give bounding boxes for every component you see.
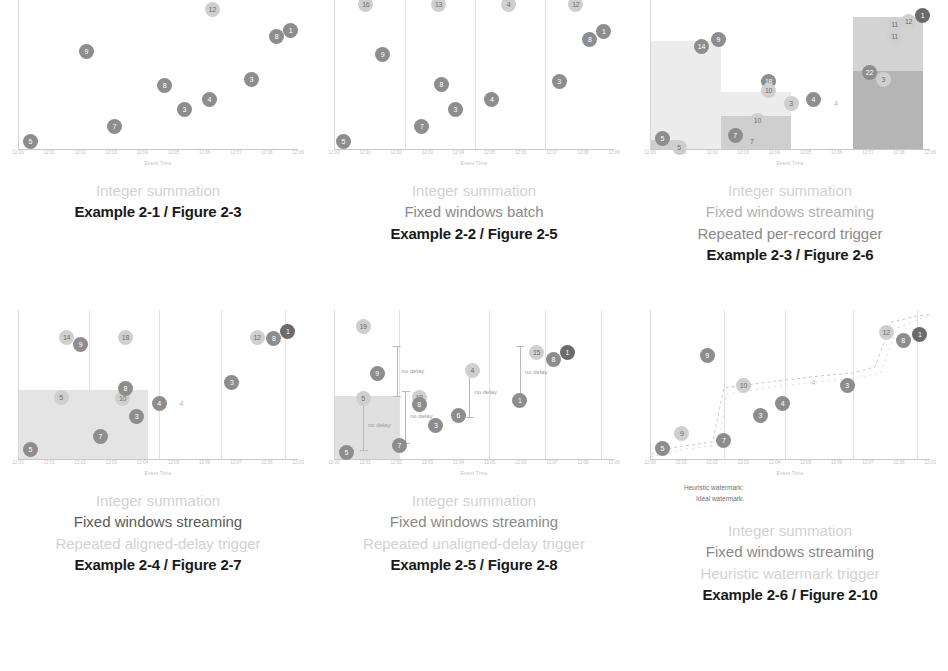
x-axis-title: Event Time [650, 160, 930, 166]
plot-area: 59971034431281 [650, 310, 930, 460]
data-point: 4 [465, 363, 480, 378]
data-point: 8 [412, 397, 427, 412]
x-tick-label: 12:01 [675, 460, 686, 465]
x-axis-ticks: 12:0012:0112:0212:0312:0412:0512:0612:07… [650, 150, 930, 159]
panel-example-2-6: 5997103443128112:0012:0112:0212:0312:041… [632, 310, 948, 671]
data-point: 9 [79, 44, 94, 59]
data-point: 8 [434, 77, 449, 92]
chart-example-2-2: 161341259738438112:0012:0112:0212:0312:0… [334, 0, 614, 166]
delay-label: no delay [525, 369, 548, 375]
x-tick-label: 12:04 [137, 150, 148, 155]
data-point: 1 [512, 393, 527, 408]
x-tick-label: 12:02 [707, 150, 718, 155]
x-tick-label: 12:03 [422, 150, 433, 155]
caption-line: Integer summation [640, 180, 940, 201]
data-point: 18 [118, 330, 133, 345]
caption-example-title: Example 2-2 / Figure 2-5 [324, 223, 624, 244]
x-tick-label: 12:05 [168, 460, 179, 465]
plot-area: no delayno delayno delayno delayno delay… [334, 310, 614, 460]
x-tick-label: 12:06 [199, 460, 210, 465]
data-point: 5 [356, 391, 371, 406]
data-point: 1 [560, 345, 575, 360]
caption-line: Integer summation [324, 180, 624, 201]
window-boundary-line [475, 0, 476, 149]
panel-example-2-5: no delayno delayno delayno delayno delay… [316, 310, 632, 671]
legend-swatch [776, 488, 822, 489]
window-total-marker: 13 [431, 0, 446, 12]
panel-example-2-1: 5978341238112:0012:0112:0212:0312:0412:0… [0, 0, 316, 310]
x-tick-label: 12:08 [893, 150, 904, 155]
data-point: 3 [753, 408, 768, 423]
caption-line: Fixed windows streaming [640, 201, 940, 222]
data-point: 3 [840, 378, 855, 393]
chart-example-2-1: 5978341238112:0012:0112:0212:0312:0412:0… [18, 0, 298, 166]
caption-example-title: Example 2-4 / Figure 2-7 [8, 554, 308, 575]
x-tick-label: 12:01 [43, 460, 54, 465]
data-point: 5 [655, 441, 670, 456]
delay-label: no delay [368, 422, 391, 428]
caption-example-title: Example 2-5 / Figure 2-8 [324, 554, 624, 575]
x-tick-label: 12:02 [391, 460, 402, 465]
data-point: 10 [750, 113, 765, 128]
x-axis-title: Event Time [18, 470, 298, 476]
data-point: 3 [876, 72, 891, 87]
data-point: 10 [736, 378, 751, 393]
x-axis-title: Event Time [334, 470, 614, 476]
plot-area: 55149771018103442231111121 [650, 0, 930, 150]
data-point: 4 [202, 92, 217, 107]
x-tick-label: 12:06 [831, 460, 842, 465]
caption-example-2-6: Integer summationFixed windows streaming… [640, 520, 940, 605]
x-tick-label: 12:02 [391, 150, 402, 155]
data-point: 12 [205, 2, 220, 17]
data-point: 4 [775, 396, 790, 411]
x-tick-label: 12:05 [168, 150, 179, 155]
window-total-marker: 16 [358, 0, 373, 12]
data-point: 8 [266, 331, 281, 346]
window-boundary-line [601, 310, 602, 459]
data-point: 5 [336, 134, 351, 149]
data-point: 9 [370, 366, 385, 381]
data-point: 3 [129, 409, 144, 424]
data-point: 12 [250, 330, 265, 345]
chart-example-2-3: 5514977101810344223111112112:0012:0112:0… [650, 0, 930, 166]
x-tick-label: 12:05 [484, 150, 495, 155]
data-point: 3 [177, 102, 192, 117]
data-point: 15 [529, 345, 544, 360]
data-point: 5 [23, 442, 38, 457]
data-point: 7 [392, 438, 407, 453]
data-point: 8 [118, 381, 133, 396]
data-point: 9 [711, 32, 726, 47]
data-point: 7 [414, 119, 429, 134]
delay-bracket [397, 346, 398, 397]
x-tick-label: 12:06 [515, 150, 526, 155]
caption-line: Integer summation [8, 490, 308, 511]
data-point: 3 [784, 96, 799, 111]
example-panel-grid: 5978341238112:0012:0112:0212:0312:0412:0… [0, 0, 948, 671]
x-axis-title: Event Time [334, 160, 614, 166]
data-point: 7 [93, 429, 108, 444]
data-point: 4 [828, 96, 843, 111]
data-point: 5 [23, 134, 38, 149]
caption-line: Integer summation [8, 180, 308, 201]
x-tick-label: 12:02 [707, 460, 718, 465]
watermark-legend: Heuristic watermark:Ideal watermark: [650, 484, 930, 506]
x-tick-label: 12:00 [644, 460, 655, 465]
x-tick-label: 12:09 [924, 150, 935, 155]
caption-example-2-4: Integer summationFixed windows streaming… [8, 490, 308, 575]
data-point: 4 [806, 92, 821, 107]
data-point: 8 [896, 333, 911, 348]
x-tick-label: 12:06 [515, 460, 526, 465]
x-axis-title: Event Time [650, 470, 930, 476]
data-point: 3 [428, 418, 443, 433]
caption-line: Fixed windows streaming [8, 511, 308, 532]
delay-label: no delay [402, 368, 425, 374]
data-point: 7 [744, 134, 759, 149]
x-tick-label: 12:09 [292, 150, 303, 155]
x-tick-label: 12:03 [422, 460, 433, 465]
x-tick-label: 12:07 [230, 150, 241, 155]
x-tick-label: 12:09 [292, 460, 303, 465]
data-point: 8 [157, 78, 172, 93]
data-point: 12 [879, 325, 894, 340]
caption-example-title: Example 2-6 / Figure 2-10 [640, 584, 940, 605]
x-tick-label: 12:04 [137, 460, 148, 465]
